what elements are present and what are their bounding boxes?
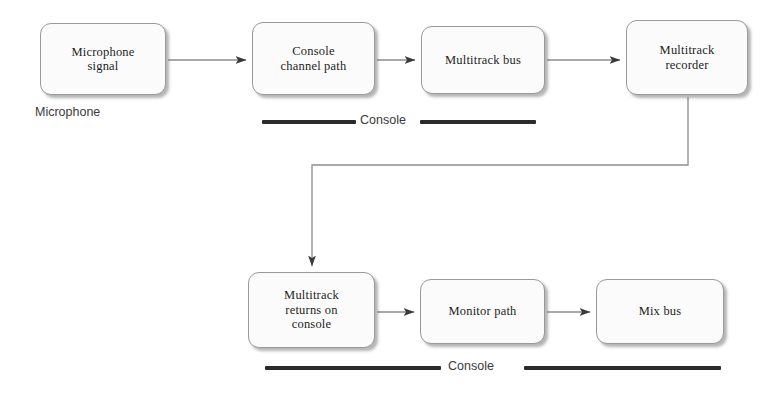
node-label: Monitor path — [443, 304, 521, 319]
node-label: Multitrack bus — [440, 53, 526, 68]
node-multitrack-bus: Multitrack bus — [421, 26, 545, 94]
node-label: Mix bus — [634, 304, 687, 319]
node-microphone-signal: Microphone signal — [40, 23, 166, 95]
node-monitor-path: Monitor path — [420, 279, 545, 344]
console-bracket-top-rule-left — [262, 120, 356, 124]
node-multitrack-returns-on-console: Multitrack returns on console — [248, 272, 375, 348]
node-label: Multitrack returns on console — [279, 288, 344, 332]
node-mix-bus: Mix bus — [596, 279, 724, 344]
signal-flow-diagram: Microphone signal Console channel path M… — [0, 0, 773, 405]
console-bracket-top-label: Console — [360, 113, 406, 127]
console-bracket-bottom-label: Console — [448, 359, 494, 373]
node-console-channel-path: Console channel path — [252, 22, 375, 95]
node-label: Microphone signal — [66, 45, 139, 74]
node-label: Console channel path — [276, 44, 352, 73]
caption-microphone: Microphone — [35, 105, 100, 119]
node-label: Multitrack recorder — [655, 43, 720, 72]
console-bracket-bottom-rule-right — [524, 366, 721, 370]
node-multitrack-recorder: Multitrack recorder — [626, 20, 748, 95]
console-bracket-top-rule-right — [420, 120, 536, 124]
console-bracket-bottom-rule-left — [265, 366, 441, 370]
